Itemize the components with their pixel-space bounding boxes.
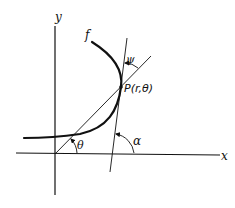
curve-label: f [84,28,92,42]
curve-f [24,42,121,138]
y-axis-label: y [54,10,62,24]
alpha-label: α [133,134,141,148]
x-axis-label: x [221,149,228,163]
psi-label: ψ [126,53,135,66]
theta-label: θ [77,139,84,152]
x-axis [16,153,220,155]
point-p [119,85,123,89]
point-label: P(r,θ) [124,82,153,95]
alpha-arc [116,134,134,153]
polar-tangent-diagram: y x f P(r,θ) θ α ψ [0,0,235,208]
